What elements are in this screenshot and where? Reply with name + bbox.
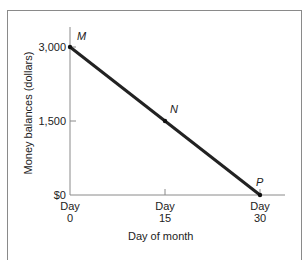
- y-tick-label-1500: 1,500: [6, 115, 66, 127]
- annotation-m: M: [77, 30, 86, 42]
- x-axis-title: Day of month: [128, 230, 193, 242]
- annotation-p: P: [256, 176, 263, 188]
- point-m: [68, 45, 72, 49]
- x-tick-label-30-line2: 30: [240, 212, 280, 224]
- x-tick-label-30: Day 30: [240, 200, 280, 224]
- x-tick-label-0-line2: 0: [50, 212, 90, 224]
- x-tick-label-30-line1: Day: [240, 200, 280, 212]
- y-tick-label-3000: 3,000: [6, 41, 66, 53]
- point-p: [258, 193, 262, 197]
- point-n: [163, 119, 167, 123]
- annotation-n: N: [170, 103, 178, 115]
- x-tick-label-0: Day 0: [50, 200, 90, 224]
- x-tick-label-15: Day 15: [145, 200, 185, 224]
- x-tick-label-15-line1: Day: [145, 200, 185, 212]
- x-tick-label-15-line2: 15: [145, 212, 185, 224]
- x-tick-label-0-line1: Day: [50, 200, 90, 212]
- y-axis-title: Money balances (dollars): [22, 48, 34, 178]
